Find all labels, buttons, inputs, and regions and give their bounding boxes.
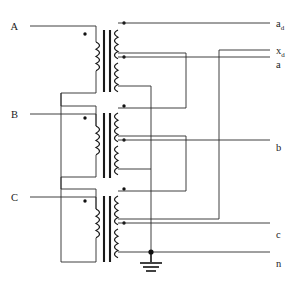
wire-B-to-C [61,155,96,189]
transformer-diagram: A B C ad xd a b c n [0,0,301,300]
terminal-label-ad: ad [276,18,285,32]
primary-delta-wiring [30,26,96,262]
polarity-dot-primary-C [83,199,86,202]
secondary-coil-S4 [115,146,119,175]
polarity-dot-primary-B [83,116,86,119]
wire-C-to-A-delta-close [61,93,96,262]
wire-C-lead [30,197,96,209]
secondary-terminal-labels: ad xd a b c n [276,18,285,269]
primary-terminal-labels: A B C [10,21,18,203]
terminal-label-b: b [276,142,281,153]
terminal-label-A: A [10,21,18,32]
secondary-coil-S5 [115,196,119,225]
terminal-label-a: a [276,59,281,70]
wire-B-lead [30,114,96,126]
primary-windings [83,32,99,237]
secondary-coil-S2 [115,63,119,92]
wire-node-to-B-coil [61,106,96,126]
primary-coil-C [96,209,100,238]
schematic-canvas: A B C ad xd a b c n [0,0,301,300]
polarity-dot-primary-A [83,32,86,35]
terminal-label-C: C [11,192,18,203]
terminal-label-xd: xd [276,45,285,59]
primary-coil-B [96,126,100,155]
wire-node-to-C-coil [61,189,96,209]
polarity-dot-secondary-S5 [122,187,125,190]
wire-S3-to-S5 [118,136,186,191]
terminal-label-n: n [276,258,282,269]
secondary-wiring [118,23,270,252]
secondary-coil-S3 [115,113,119,142]
transformer-core [104,30,110,262]
terminal-label-B: B [11,109,18,120]
wire-S1-to-S3 [118,53,186,108]
secondary-coil-S6 [115,229,119,258]
terminal-label-c: c [276,229,281,240]
polarity-dot-secondary-S3 [122,104,125,107]
wire-A-to-B [61,71,96,106]
wire-S5-to-xd [118,50,270,219]
earth-ground-symbol [140,249,162,271]
secondary-coil-S1 [115,30,119,59]
primary-coil-A [96,42,100,71]
